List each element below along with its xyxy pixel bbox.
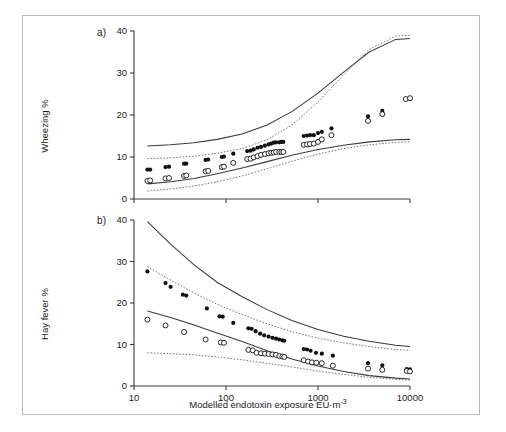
data-point-open (366, 366, 371, 371)
y-tick-label: 0 (122, 193, 127, 204)
data-point-open (206, 168, 211, 173)
data-point-open (145, 317, 150, 322)
data-point-open (366, 118, 371, 123)
data-point-filled (320, 352, 324, 356)
data-point-open (319, 361, 324, 366)
data-point-open (148, 178, 153, 183)
data-point-filled (282, 339, 286, 343)
data-point-open (408, 96, 413, 101)
data-point-filled (270, 336, 274, 340)
panel-b-letter: b) (97, 215, 106, 226)
data-point-filled (258, 332, 262, 336)
data-point-filled (145, 269, 149, 273)
data-point-filled (331, 354, 335, 358)
data-point-open (184, 173, 189, 178)
data-point-open (330, 363, 335, 368)
y-tick-label: 20 (116, 297, 127, 308)
x-tick-label: 10000 (397, 392, 423, 403)
data-point-open (221, 340, 226, 345)
panel-a-xtick-group (134, 199, 410, 203)
y-tick-label: 10 (116, 339, 127, 350)
y-tick-label: 30 (116, 256, 127, 267)
data-point-open (329, 133, 334, 138)
data-point-filled (184, 162, 188, 166)
data-point-filled (254, 329, 258, 333)
data-point-filled (312, 133, 316, 137)
data-point-open (166, 176, 171, 181)
data-point-filled (308, 133, 312, 137)
data-point-filled (221, 315, 225, 319)
data-point-open (203, 337, 208, 342)
data-point-filled (163, 281, 167, 285)
panel-a: a) Wheezing % 010203040 (39, 25, 413, 204)
data-point-open (221, 164, 226, 169)
panel-b-ylabel: Hay fever % (39, 288, 50, 340)
data-point-open (380, 367, 385, 372)
panel-b: b) Hay fever % 010203040 10100100010000 … (39, 214, 423, 410)
data-point-filled (250, 327, 254, 331)
data-point-open (281, 149, 286, 154)
panel-a-letter: a) (97, 27, 106, 38)
x-axis-title-main: Modelled endotoxin exposure EU·m (189, 399, 340, 410)
data-point-open (319, 137, 324, 142)
data-point-filled (263, 144, 267, 148)
y-tick-label: 0 (122, 380, 127, 391)
data-point-filled (167, 165, 171, 169)
data-point-filled (184, 293, 188, 297)
y-tick-label: 10 (116, 151, 127, 162)
figure-frame: a) Wheezing % 010203040 b) Hay fever % 0… (22, 15, 480, 415)
y-tick-label: 40 (116, 25, 127, 36)
data-point-filled (320, 130, 324, 134)
data-point-open (163, 323, 168, 328)
figure-canvas: a) Wheezing % 010203040 b) Hay fever % 0… (23, 16, 479, 414)
data-point-filled (281, 140, 285, 144)
data-point-filled (366, 114, 370, 118)
data-point-filled (222, 154, 226, 158)
x-axis-title: Modelled endotoxin exposure EU·m-3 (189, 398, 346, 410)
data-point-filled (380, 363, 384, 367)
data-point-filled (252, 147, 256, 151)
panel-b-ytick-group: 010203040 (116, 214, 134, 391)
panel-b-xtick-group (134, 386, 410, 390)
band-upper-solid (147, 39, 410, 147)
data-point-filled (259, 145, 263, 149)
data-point-open (380, 112, 385, 117)
panel-a-data-points (145, 96, 413, 184)
data-point-filled (206, 157, 210, 161)
data-point-filled (169, 285, 173, 289)
panel-a-ylabel: Wheezing % (39, 99, 50, 153)
x-tick-label: 10 (129, 392, 140, 403)
panel-a-ytick-group: 010203040 (116, 25, 134, 204)
data-point-open (408, 369, 413, 374)
y-tick-label: 30 (116, 67, 127, 78)
data-point-filled (231, 321, 235, 325)
data-point-filled (366, 361, 370, 365)
data-point-filled (262, 333, 266, 337)
data-point-filled (266, 335, 270, 339)
data-point-filled (316, 131, 320, 135)
data-point-filled (314, 351, 318, 355)
band-upper-dotted (147, 35, 410, 158)
data-point-open (182, 330, 187, 335)
data-point-filled (205, 306, 209, 310)
data-point-filled (308, 349, 312, 353)
y-tick-label: 20 (116, 109, 127, 120)
data-point-open (282, 354, 287, 359)
x-axis-title-superscript: -3 (340, 398, 346, 405)
data-point-open (314, 360, 319, 365)
y-tick-label: 40 (116, 214, 127, 225)
data-point-filled (255, 146, 259, 150)
data-point-filled (231, 152, 235, 156)
panel-a-confidence-bands (147, 35, 410, 191)
data-point-filled (329, 126, 333, 130)
data-point-open (231, 160, 236, 165)
data-point-filled (148, 168, 152, 172)
